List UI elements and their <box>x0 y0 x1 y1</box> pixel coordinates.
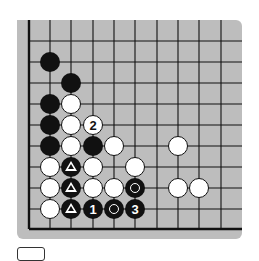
black-stone: 3 <box>125 199 145 219</box>
white-stone <box>83 157 103 177</box>
black-stone <box>61 73 81 93</box>
black-stone <box>40 94 60 114</box>
move-number: 1 <box>89 203 96 216</box>
move-number: 2 <box>89 119 96 132</box>
triangle-mark-icon <box>65 182 77 192</box>
black-stone <box>61 178 81 198</box>
white-stone <box>189 178 209 198</box>
circle-mark-icon <box>130 183 140 193</box>
white-stone <box>104 136 124 156</box>
black-stone <box>83 136 103 156</box>
circle-mark-icon <box>109 204 119 214</box>
move-number: 3 <box>131 203 138 216</box>
caption-box <box>17 247 45 261</box>
white-stone <box>40 178 60 198</box>
triangle-mark-icon <box>65 161 77 171</box>
black-stone <box>104 199 124 219</box>
black-stone <box>61 157 81 177</box>
black-stone <box>40 136 60 156</box>
triangle-mark-icon <box>65 203 77 213</box>
black-stone: 1 <box>83 199 103 219</box>
white-stone <box>61 136 81 156</box>
white-stone <box>168 178 188 198</box>
white-stone <box>104 178 124 198</box>
white-stone <box>40 199 60 219</box>
black-stone <box>125 178 145 198</box>
white-stone <box>61 94 81 114</box>
white-stone <box>83 178 103 198</box>
white-stone <box>40 157 60 177</box>
white-stone <box>168 136 188 156</box>
white-stone <box>125 157 145 177</box>
black-stone <box>40 115 60 135</box>
white-stone <box>61 115 81 135</box>
black-stone <box>61 199 81 219</box>
white-stone: 2 <box>83 115 103 135</box>
black-stone <box>40 52 60 72</box>
